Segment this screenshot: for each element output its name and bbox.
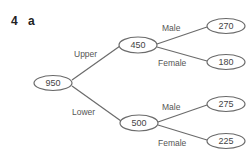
tree-diagram: 950 450 500 270 180 275 225 Upper Lower … [0,0,252,163]
branch-label-lower-male: Male [162,102,181,112]
branch-label-upper-female: Female [158,58,187,68]
node-upper-value: 450 [130,40,145,50]
branch-label-lower: Lower [72,107,95,117]
node-lower-value: 500 [131,118,146,128]
node-upper-female-value: 180 [218,57,233,67]
branch-label-lower-female: Female [158,138,187,148]
node-lower-female-value: 225 [218,136,233,146]
node-upper-male-value: 270 [218,21,233,31]
branch-label-upper: Upper [74,49,97,59]
node-root-value: 950 [45,78,60,88]
branch-label-upper-male: Male [162,23,181,33]
node-lower-male-value: 275 [218,99,233,109]
